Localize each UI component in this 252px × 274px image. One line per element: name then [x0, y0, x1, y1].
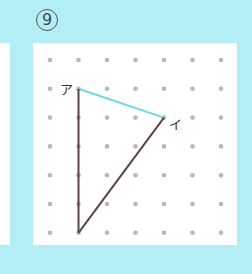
segment-a-i — [79, 89, 165, 118]
grid-dot — [76, 58, 81, 63]
grid-dot — [162, 173, 167, 178]
grid-dot — [105, 115, 110, 120]
grid-dot — [48, 231, 53, 236]
grid-dot — [219, 173, 224, 178]
grid-dot — [48, 58, 53, 63]
grid-dot — [133, 87, 138, 92]
grid-dot — [219, 115, 224, 120]
dot-grid-diagram — [0, 0, 252, 274]
grid-dot — [105, 173, 110, 178]
vertex-label-a: ア — [60, 79, 73, 98]
grid-dot — [133, 115, 138, 120]
grid-dot — [48, 144, 53, 149]
grid-dot — [133, 173, 138, 178]
grid-dot — [190, 115, 195, 120]
grid-dot — [190, 87, 195, 92]
grid-dot — [219, 231, 224, 236]
segment-bottom-i — [79, 118, 165, 233]
grid-dot — [105, 231, 110, 236]
grid-dot — [190, 231, 195, 236]
grid-dot — [48, 173, 53, 178]
grid-dot — [162, 87, 167, 92]
grid-dot — [105, 202, 110, 207]
grid-dot — [133, 202, 138, 207]
grid-dot — [162, 231, 167, 236]
grid-dot — [133, 144, 138, 149]
grid-dot — [133, 231, 138, 236]
grid-dot — [190, 144, 195, 149]
grid-dot — [162, 202, 167, 207]
grid-dot — [219, 58, 224, 63]
grid-dot — [219, 144, 224, 149]
vertex-label-i: イ — [169, 114, 182, 133]
grid-dot — [105, 144, 110, 149]
grid-dot — [48, 202, 53, 207]
grid-dot — [105, 87, 110, 92]
grid-dot — [48, 115, 53, 120]
grid-dot — [219, 202, 224, 207]
grid-dot — [219, 87, 224, 92]
grid-dot — [133, 58, 138, 63]
grid-dot — [48, 87, 53, 92]
grid-dot — [162, 58, 167, 63]
grid-dot — [162, 144, 167, 149]
grid-dot — [190, 202, 195, 207]
grid-dot — [105, 58, 110, 63]
grid-dot — [190, 173, 195, 178]
grid-dot — [190, 58, 195, 63]
